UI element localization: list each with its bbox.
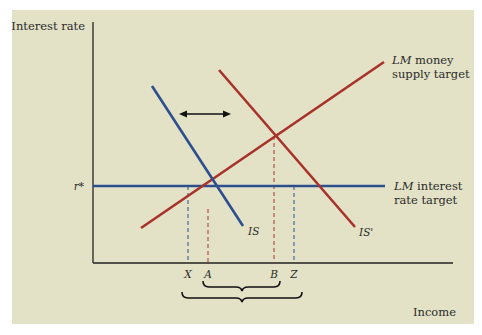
is-lm-diagram: Interest rate Income r* IS IS' LM money … — [0, 0, 482, 335]
tick-label-a: A — [203, 268, 212, 280]
is-prime-label: IS' — [358, 226, 373, 238]
brace-a-b — [203, 281, 280, 291]
x-axis-label: Income — [413, 305, 456, 319]
lm-money-supply-curve — [141, 62, 384, 228]
lm-interest-rate-label-line2: rate target — [394, 193, 458, 207]
y-axis-label: Interest rate — [11, 19, 85, 33]
lm-interest-rate-label: LM interest — [393, 179, 463, 193]
r-star-label: r* — [74, 180, 85, 192]
double-headed-arrow-icon — [179, 111, 231, 118]
tick-label-x: X — [183, 268, 192, 280]
is-prime-curve — [219, 70, 355, 227]
lm-money-supply-label-line2: supply target — [392, 67, 470, 81]
is-label: IS — [247, 225, 259, 237]
brace-x-z — [182, 292, 302, 302]
tick-label-b: B — [269, 268, 278, 280]
tick-label-z: Z — [289, 268, 298, 280]
lm-money-supply-label: LM money — [391, 53, 454, 67]
is-curve — [152, 86, 243, 226]
